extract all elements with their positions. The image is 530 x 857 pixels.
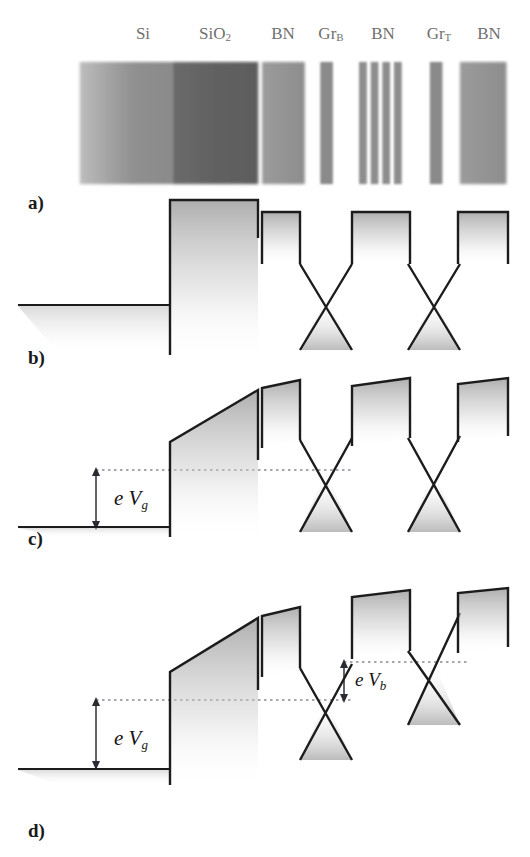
graphene-bottom-cone-lower-fill-c <box>300 472 352 532</box>
gate-voltage-label-d: e Vg <box>114 726 148 753</box>
graphene-top-cone-lower-fill-c <box>408 472 460 532</box>
stack-label-bn-top: BN <box>477 24 501 44</box>
panel-label-c: c) <box>28 528 43 550</box>
slab-bn-middle-3 <box>382 62 390 184</box>
band-diagram-panel-b <box>0 190 530 355</box>
sio2-barrier-fill-c <box>170 390 258 537</box>
bn-top-fill-c <box>458 378 508 442</box>
slab-si <box>80 62 173 184</box>
figure-band-diagram: Si SiO2 BN GrB BN GrT BN <box>0 0 530 857</box>
slab-graphene-top <box>430 62 443 184</box>
stack-label-row: Si SiO2 BN GrB BN GrT BN <box>0 24 530 58</box>
bn-top-fill-b <box>458 212 508 264</box>
stack-label-gr-bottom: GrB <box>318 24 343 44</box>
si-tail-d <box>18 770 170 785</box>
slab-graphene-bottom <box>320 62 333 184</box>
stack-label-si: Si <box>136 24 150 44</box>
panel-label-b: b) <box>28 347 45 369</box>
bn-bottom-fill-b <box>262 212 300 264</box>
gate-voltage-arrow-d <box>92 697 100 770</box>
sio2-barrier-fill-b <box>170 200 258 355</box>
slab-bn-middle-4 <box>394 62 402 184</box>
gate-voltage-label-c: e Vg <box>114 486 148 513</box>
band-diagram-panel-d <box>0 585 530 785</box>
slab-sio2 <box>173 62 258 184</box>
bn-top-fill-d <box>458 588 508 653</box>
stack-label-bn-middle: BN <box>371 24 395 44</box>
bias-voltage-label-d: e Vb <box>355 669 386 694</box>
bn-bottom-fill-c <box>262 380 300 448</box>
stack-label-sio2: SiO2 <box>199 24 231 44</box>
gate-voltage-arrow-c <box>92 467 100 530</box>
bn-middle-fill-d <box>352 590 410 659</box>
stack-label-bn-bottom: BN <box>271 24 295 44</box>
layer-stack-cross-section <box>0 60 530 188</box>
slab-bn-middle-2 <box>371 62 379 184</box>
panel-label-d: d) <box>28 820 45 842</box>
bn-middle-fill-c <box>352 378 410 446</box>
slab-bn-bottom <box>262 62 305 184</box>
bn-bottom-fill-d <box>262 607 300 677</box>
slab-bn-middle-1 <box>359 62 367 184</box>
slab-bn-top <box>460 62 507 184</box>
stack-label-gr-top: GrT <box>427 24 452 44</box>
band-diagram-panel-c <box>0 372 530 537</box>
sio2-barrier-fill-d <box>170 618 258 785</box>
graphene-bottom-cone-upper-fill-b <box>300 264 352 298</box>
bn-middle-fill-b <box>352 212 410 264</box>
